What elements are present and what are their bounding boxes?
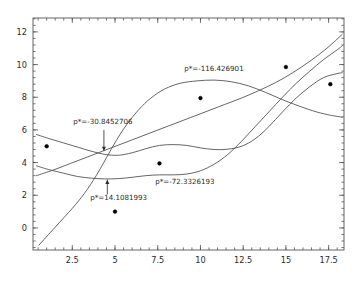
curve-annotations: p*=-116.426901p*=-30.8452706p*=-72.33261… — [73, 64, 244, 202]
x-tick-label: 12.5 — [234, 255, 252, 265]
y-tick-label: 0 — [22, 223, 27, 233]
x-tick-label: 10 — [195, 255, 205, 265]
y-tick-label: 6 — [22, 125, 27, 135]
curve-sigmoid — [39, 80, 342, 245]
annotation-arrow-annot-30 — [102, 130, 106, 151]
plot-frame — [33, 18, 344, 250]
data-point — [45, 144, 49, 148]
data-point — [199, 96, 203, 100]
annotation-label-annot-72: p*=-72.3326193 — [155, 177, 214, 186]
x-tick-label: 2.5 — [66, 255, 79, 265]
data-point — [113, 210, 117, 214]
chart-figure: 2.557.51012.51517.5024681012p*=-116.4269… — [0, 0, 355, 285]
annotation-label-annot-116: p*=-116.426901 — [184, 64, 243, 73]
y-tick-label: 8 — [22, 92, 27, 102]
data-point — [158, 162, 162, 166]
annotation-label-annot-30: p*=-30.8452706 — [73, 117, 133, 126]
data-points — [45, 65, 332, 213]
x-tick-label: 7.5 — [151, 255, 164, 265]
data-point — [328, 82, 332, 86]
y-tick-label: 12 — [17, 27, 27, 37]
axis-tick-labels: 2.557.51012.51517.5024681012 — [17, 27, 338, 265]
axis-ticks — [33, 18, 344, 250]
x-tick-label: 17.5 — [320, 255, 338, 265]
data-point — [284, 65, 288, 69]
y-tick-label: 10 — [17, 60, 27, 70]
y-tick-label: 4 — [22, 158, 27, 168]
x-tick-label: 5 — [112, 255, 117, 265]
y-tick-label: 2 — [22, 190, 27, 200]
x-tick-label: 15 — [281, 255, 291, 265]
annotation-label-annot-14: p*=14.1081993 — [90, 193, 147, 202]
curve-shallow-decline — [36, 73, 342, 156]
plot-canvas: 2.557.51012.51517.5024681012p*=-116.4269… — [0, 0, 355, 285]
